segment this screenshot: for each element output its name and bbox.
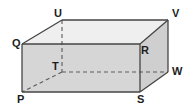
vertex-label-V: V: [172, 8, 179, 19]
face-front-PQRS: [22, 44, 140, 92]
vertex-label-R: R: [141, 45, 149, 56]
cuboid-diagram: U V Q R T W P S: [0, 0, 195, 111]
vertex-label-S: S: [137, 94, 144, 105]
vertex-label-P: P: [17, 94, 24, 105]
vertex-label-T: T: [52, 61, 59, 72]
vertex-label-Q: Q: [12, 38, 21, 49]
cuboid-svg: [0, 0, 195, 111]
vertex-label-W: W: [172, 66, 182, 77]
vertex-label-U: U: [54, 8, 62, 19]
